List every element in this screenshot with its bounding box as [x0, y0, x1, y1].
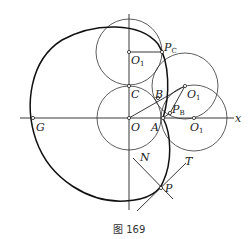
label-O1-axis: O1	[190, 121, 204, 135]
label-C: C	[131, 88, 140, 101]
label-A: A	[150, 121, 159, 134]
locus-curve	[30, 27, 169, 201]
label-PB: PB	[171, 103, 185, 117]
label-O: O	[131, 121, 140, 134]
point-P	[159, 186, 162, 189]
point-O	[127, 116, 130, 119]
label-G: G	[36, 121, 45, 134]
label-P: P	[164, 182, 173, 195]
point-G	[31, 116, 34, 119]
geometry-figure: x O G A C B O1 O1 O1 PC PB P N T 图 169	[0, 0, 252, 239]
label-PC: PC	[163, 41, 177, 55]
label-T: T	[185, 155, 194, 168]
label-B: B	[154, 88, 163, 101]
point-O1-axis	[192, 116, 195, 119]
label-x-axis: x	[235, 112, 242, 125]
label-O1-top: O1	[131, 54, 145, 68]
label-N: N	[139, 151, 150, 164]
point-A	[161, 116, 164, 119]
figure-caption: 图 169	[113, 224, 145, 235]
label-O1-mid: O1	[187, 88, 201, 102]
